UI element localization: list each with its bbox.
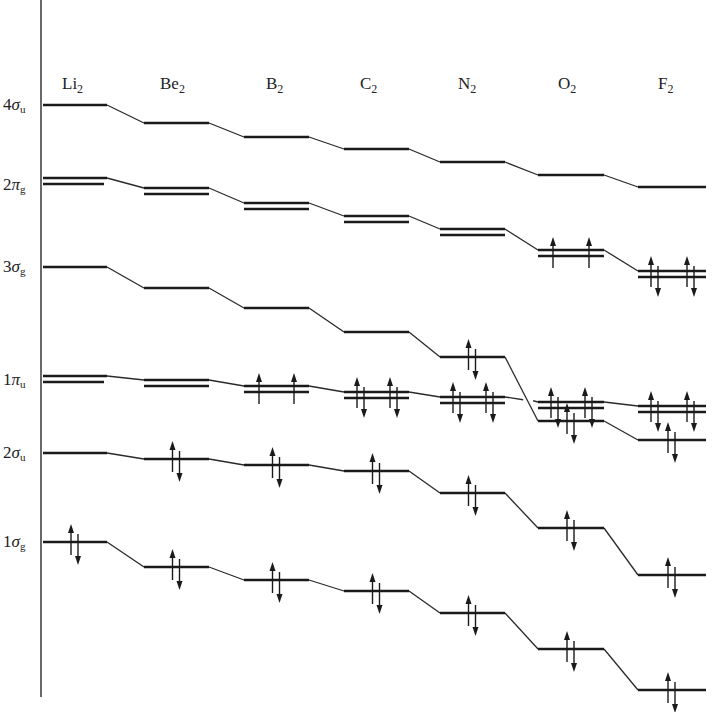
orbital-labels: 4σu2πg3σg1πu2σu1σg: [3, 95, 26, 552]
connector-1sg: [209, 567, 244, 580]
spin-up-arrow-icon: [665, 672, 671, 703]
spin-up-arrow-icon: [68, 524, 74, 555]
spin-up-arrow-icon: [466, 339, 472, 370]
connector-2pg: [309, 203, 344, 216]
spin-up-arrow-icon: [370, 453, 376, 484]
connector-4su: [409, 149, 440, 162]
connector-4su: [505, 162, 538, 175]
spin-down-arrow-icon: [672, 567, 678, 598]
spin-down-arrow-icon: [473, 349, 479, 380]
connector-2su: [107, 453, 144, 459]
spin-down-arrow-icon: [672, 682, 678, 712]
spin-up-arrow-icon: [564, 510, 570, 541]
molecule-label-li2: Li2: [62, 74, 83, 96]
molecule-label-f2: F2: [658, 74, 673, 96]
connector-3sg: [409, 332, 440, 357]
orbital-label-3sg: 3σg: [3, 257, 26, 277]
spin-up-arrow-icon: [466, 475, 472, 506]
mo-diagram: Li2Be2B2C2N2O2F2 4σu2πg3σg1πu2σu1σg: [0, 0, 728, 712]
spin-up-arrow-icon: [170, 549, 176, 580]
connector-1pu: [107, 376, 144, 380]
spin-down-arrow-icon: [571, 413, 577, 444]
connector-2su: [505, 493, 538, 528]
spin-up-arrow-icon: [665, 557, 671, 588]
connector-1pu: [533, 401, 538, 402]
spin-down-arrow-icon: [571, 520, 577, 551]
spin-up-arrow-icon: [466, 595, 472, 626]
connector-3sg: [209, 288, 244, 308]
orbital-label-4su: 4σu: [3, 95, 26, 115]
spin-up-arrow-icon: [564, 631, 570, 662]
connector-2su: [209, 459, 244, 465]
connector-4su: [107, 105, 144, 123]
connector-1pu: [409, 392, 440, 397]
spin-down-arrow-icon: [473, 485, 479, 516]
orbital-label-1pu: 1πu: [3, 370, 26, 390]
orbital-label-2pg: 2πg: [3, 175, 26, 195]
molecule-label-n2: N2: [458, 74, 476, 96]
connector-3sg: [604, 421, 638, 440]
molecule-labels: Li2Be2B2C2N2O2F2: [62, 74, 673, 96]
connector-2su: [309, 465, 344, 471]
orbital-label-2su: 2σu: [3, 443, 26, 463]
connector-1sg: [604, 649, 638, 690]
electron-spins: [68, 237, 697, 712]
spin-down-arrow-icon: [277, 572, 283, 603]
connector-1pu: [209, 380, 244, 386]
spin-down-arrow-icon: [377, 463, 383, 494]
connector-4su: [209, 123, 244, 137]
spin-down-arrow-icon: [473, 605, 479, 636]
connector-1sg: [409, 591, 440, 613]
spin-up-arrow-icon: [665, 422, 671, 453]
energy-levels: [43, 105, 706, 690]
connector-2pg: [505, 229, 538, 250]
connector-3sg: [505, 357, 538, 421]
connector-2su: [604, 528, 638, 575]
spin-up-arrow-icon: [370, 573, 376, 604]
connector-4su: [604, 175, 638, 187]
orbital-label-1sg: 1σg: [3, 532, 26, 552]
connector-3sg: [107, 267, 144, 288]
spin-up-arrow-icon: [256, 373, 262, 404]
molecule-label-be2: Be2: [160, 74, 185, 96]
connector-2pg: [209, 188, 244, 203]
connector-1pu: [604, 402, 638, 406]
spin-down-arrow-icon: [571, 641, 577, 672]
molecule-label-b2: B2: [266, 74, 283, 96]
connector-1pu: [505, 397, 523, 400]
connector-2pg: [604, 250, 638, 271]
connector-2pg: [409, 216, 440, 229]
spin-down-arrow-icon: [672, 432, 678, 463]
connector-2pg: [107, 178, 144, 188]
spin-up-arrow-icon: [550, 237, 556, 268]
spin-up-arrow-icon: [170, 441, 176, 472]
molecule-label-o2: O2: [558, 74, 576, 96]
connector-3sg: [309, 308, 344, 332]
spin-down-arrow-icon: [277, 457, 283, 488]
spin-up-arrow-icon: [270, 562, 276, 593]
connector-1pu: [309, 386, 344, 392]
connector-1sg: [309, 580, 344, 591]
connector-4su: [309, 137, 344, 149]
connector-1sg: [107, 542, 144, 567]
spin-down-arrow-icon: [377, 583, 383, 614]
connector-2su: [409, 471, 440, 493]
spin-up-arrow-icon: [586, 237, 592, 268]
spin-down-arrow-icon: [75, 534, 81, 565]
spin-up-arrow-icon: [291, 373, 297, 404]
spin-up-arrow-icon: [270, 447, 276, 478]
molecule-label-c2: C2: [360, 74, 377, 96]
spin-down-arrow-icon: [177, 451, 183, 482]
connector-1sg: [505, 613, 538, 649]
spin-down-arrow-icon: [177, 559, 183, 590]
